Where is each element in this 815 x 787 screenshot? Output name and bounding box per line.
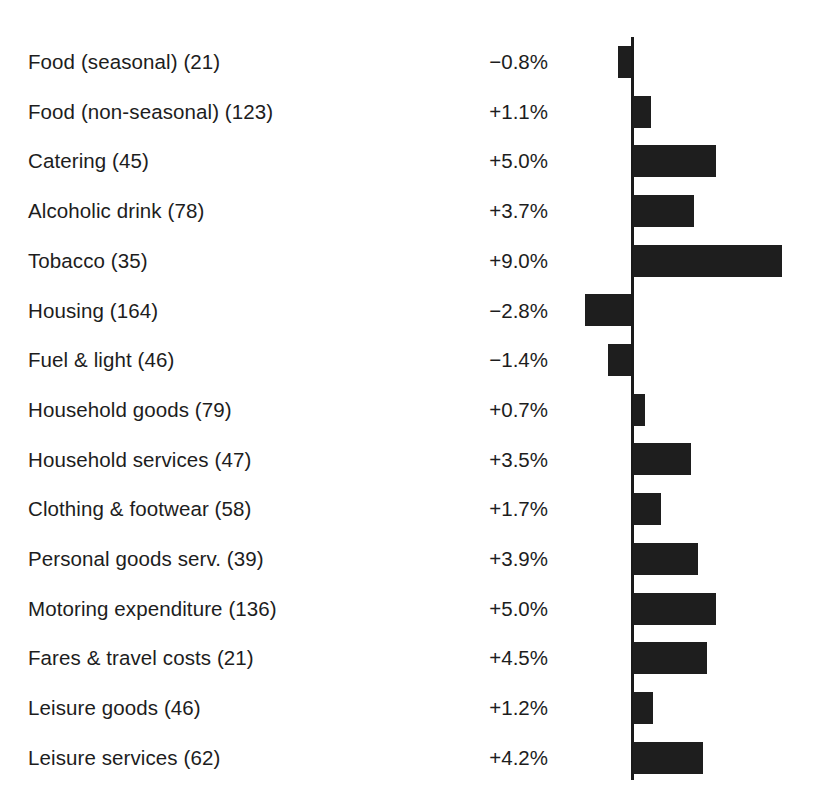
bar: [633, 493, 661, 525]
bar: [633, 96, 651, 128]
bar: [633, 245, 782, 277]
bar: [633, 145, 716, 177]
bar: [633, 195, 694, 227]
bar: [618, 46, 631, 78]
bar: [633, 642, 707, 674]
bar: [633, 593, 716, 625]
plot-area: [0, 0, 815, 787]
bar: [608, 344, 631, 376]
bar: [633, 742, 703, 774]
bar: [633, 692, 653, 724]
horizontal-bar-chart: Food (seasonal) (21)−0.8%Food (non-seaso…: [0, 0, 815, 787]
bar: [585, 294, 631, 326]
bar: [633, 443, 691, 475]
bar: [633, 543, 698, 575]
bar: [633, 394, 645, 426]
